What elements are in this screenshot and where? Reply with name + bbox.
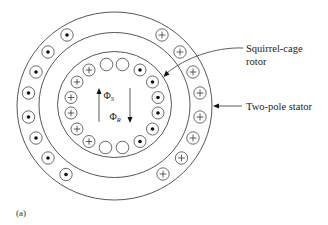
stator-conductor-plus: [174, 46, 186, 58]
rotor-conductor-plus: [71, 76, 83, 88]
rotor-conductor-plus: [83, 64, 95, 76]
rotor-conductors-left: [65, 64, 95, 148]
rotor-conductors-empty: [99, 58, 129, 154]
stator-label: Two-pole stator: [246, 101, 313, 112]
rotor-conductor-empty: [99, 141, 112, 154]
stator-conductor-dot: [22, 87, 34, 99]
rotor-conductor-dot: [147, 76, 159, 88]
stator-flux-arrow: [97, 88, 102, 122]
arrow-down-icon: [128, 117, 133, 123]
stator-inner-ring: [39, 33, 190, 178]
rotor-ring: [58, 52, 172, 158]
stator-conductor-dot: [30, 132, 42, 144]
stator-conductor-dot: [42, 152, 54, 164]
rotor-conductor-dot: [134, 136, 146, 148]
stator-conductor-plus: [157, 168, 169, 180]
motor-diagram: ΦS ΦR Squirrel-cage rotor Two-pole stato…: [0, 0, 328, 225]
stator-conductor-dot: [61, 29, 73, 41]
rotor-label-line2: rotor: [246, 56, 267, 67]
rotor-flux-label: ΦR: [110, 111, 121, 123]
rotor-conductor-dot: [152, 107, 164, 119]
stator-conductor-plus: [194, 87, 206, 99]
stator-conductor-plus: [175, 152, 187, 164]
rotor-conductor-dot: [147, 123, 159, 135]
rotor-conductors-right: [134, 64, 164, 148]
figure-caption: (a): [16, 208, 26, 218]
stator-conductor-plus: [187, 132, 199, 144]
stator-conductors-left: [22, 29, 73, 181]
stator-conductors-right: [156, 29, 206, 180]
stator-conductor-dot: [42, 46, 54, 58]
rotor-conductor-plus: [65, 92, 77, 104]
rotor-flux-arrow: [128, 88, 133, 123]
stator-conductor-plus: [156, 29, 168, 41]
rotor-label-line1: Squirrel-cage: [246, 43, 303, 54]
stator-conductor-dot: [22, 111, 34, 123]
stator-conductor-dot: [60, 168, 72, 180]
stator-conductor-plus: [194, 111, 206, 123]
rotor-conductor-dot: [152, 92, 164, 104]
stator-flux-label: ΦS: [104, 90, 115, 102]
stator-leader: [213, 104, 242, 109]
stator-outer-ring: [17, 12, 212, 200]
rotor-conductor-plus: [65, 107, 77, 119]
rotor-conductor-dot: [134, 64, 146, 76]
rotor-conductor-plus: [83, 136, 95, 148]
rotor-conductor-empty: [116, 58, 129, 71]
rotor-conductor-empty: [100, 58, 113, 71]
arrow-left-icon: [213, 104, 219, 109]
arrow-up-icon: [97, 88, 102, 94]
stator-conductor-plus: [187, 66, 199, 78]
rotor-conductor-empty: [116, 141, 129, 154]
rotor-conductor-plus: [71, 123, 83, 135]
stator-conductor-dot: [30, 66, 42, 78]
